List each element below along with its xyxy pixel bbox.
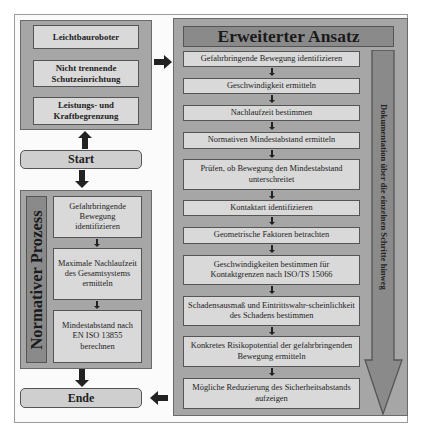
arrow-small-down-icon xyxy=(271,95,273,100)
arrow-down-icon xyxy=(74,170,90,188)
normative-title-text: Normativer Prozess xyxy=(27,210,47,349)
arrow-small-down-icon xyxy=(271,122,273,127)
normative-step-3: Mindestabstand nach EN ISO 13855 berechn… xyxy=(53,310,142,363)
arrow-small-down-icon xyxy=(271,68,273,73)
extended-step-2: Geschwindigkeit ermitteln xyxy=(183,78,360,94)
box-leistungsbegrenzung: Leistungs- und Kraftbegrenzung xyxy=(33,97,139,125)
arrow-small-down-icon xyxy=(96,301,98,306)
normative-step-2: Maximale Nachlaufzeit des Gesamtsystems … xyxy=(53,248,142,300)
extended-step-4: Normativen Mindestabstand ermitteln xyxy=(183,132,360,149)
normative-process-title: Normativer Prozess xyxy=(26,196,47,363)
extended-approach-title: Erweiterter Ansatz xyxy=(183,26,394,47)
extended-step-11: Mögliche Reduzierung des Sicherheitsabst… xyxy=(183,378,360,409)
documentation-label: Dokumentation über die einzelnen Schritt… xyxy=(364,52,404,342)
extended-step-7: Geometrische Faktoren betrachten xyxy=(183,227,360,244)
arrow-small-down-icon xyxy=(271,191,273,196)
extended-step-3: Nachlaufzeit bestimmen xyxy=(183,105,360,121)
arrow-small-down-icon xyxy=(96,239,98,244)
arrow-small-down-icon xyxy=(271,245,273,250)
arrow-down-icon xyxy=(74,369,90,387)
arrow-left-icon xyxy=(150,390,168,406)
arrow-small-down-icon xyxy=(271,327,273,332)
arrow-small-down-icon xyxy=(271,217,273,222)
end-node: Ende xyxy=(20,388,142,408)
arrow-small-down-icon xyxy=(271,286,273,291)
arrow-small-down-icon xyxy=(271,150,273,155)
box-leichtbauroboter: Leichtbauroboter xyxy=(33,25,139,49)
extended-step-6: Kontaktart identifizieren xyxy=(183,200,360,216)
documentation-text: Dokumentation über die einzelnen Schritt… xyxy=(379,104,389,290)
extended-step-9: Schadensausmaß und Eintrittswahr-scheinl… xyxy=(183,296,360,326)
extended-step-1: Gefahrbringende Bewegung identifizieren xyxy=(183,51,360,67)
extended-step-10: Konkretes Risikopotential der gefahrbrin… xyxy=(183,336,360,367)
normative-step-1: Gefahrbringende Bewegung identifizieren xyxy=(53,196,142,238)
arrow-up-icon xyxy=(77,131,93,149)
start-node: Start xyxy=(20,150,142,169)
arrow-small-down-icon xyxy=(271,368,273,373)
arrow-right-icon xyxy=(154,54,172,70)
extended-step-8: Geschwindigkeiten bestimmen für Kontaktg… xyxy=(183,255,360,285)
box-schutzeinrichtung: Nicht trennende Schutzeinrichtung xyxy=(33,60,139,87)
extended-step-5: Prüfen, ob Bewegung den Mindestabstand u… xyxy=(183,159,360,190)
